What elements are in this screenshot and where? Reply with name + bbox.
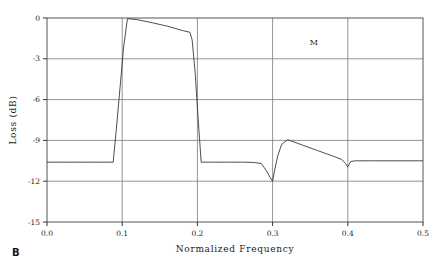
- y-tick-label: -12: [28, 177, 40, 186]
- x-tick-label: 0.3: [267, 229, 279, 238]
- y-tick-label: -9: [33, 136, 41, 145]
- y-axis-label: Loss (dB): [8, 95, 18, 144]
- chart-background: [0, 0, 441, 266]
- chart-annotations: M: [310, 38, 318, 47]
- x-tick-label: 0.1: [116, 229, 128, 238]
- y-tick-label: -15: [28, 218, 40, 227]
- loss-vs-frequency-chart: 0-3-6-9-12-15 0.00.10.20.30.40.5 M Norma…: [0, 0, 441, 266]
- x-axis-label: Normalized Frequency: [176, 244, 295, 254]
- annotation-label: M: [310, 38, 318, 47]
- x-tick-label: 0.2: [191, 229, 203, 238]
- x-tick-label: 0.5: [417, 229, 429, 238]
- y-tick-label: 0: [35, 14, 40, 23]
- panel-label: B: [12, 247, 20, 258]
- x-tick-label: 0.4: [342, 229, 354, 238]
- y-tick-label: -3: [33, 54, 41, 63]
- x-tick-label: 0.0: [41, 229, 53, 238]
- y-tick-label: -6: [33, 95, 41, 104]
